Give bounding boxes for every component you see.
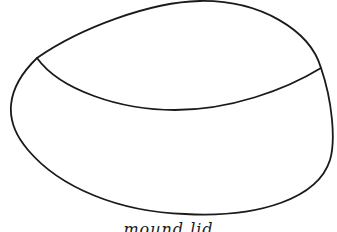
outer-shape bbox=[11, 1, 333, 215]
diagram bbox=[0, 0, 337, 232]
diagram-caption: mound lid bbox=[0, 222, 337, 232]
dividing-curve bbox=[37, 58, 321, 110]
